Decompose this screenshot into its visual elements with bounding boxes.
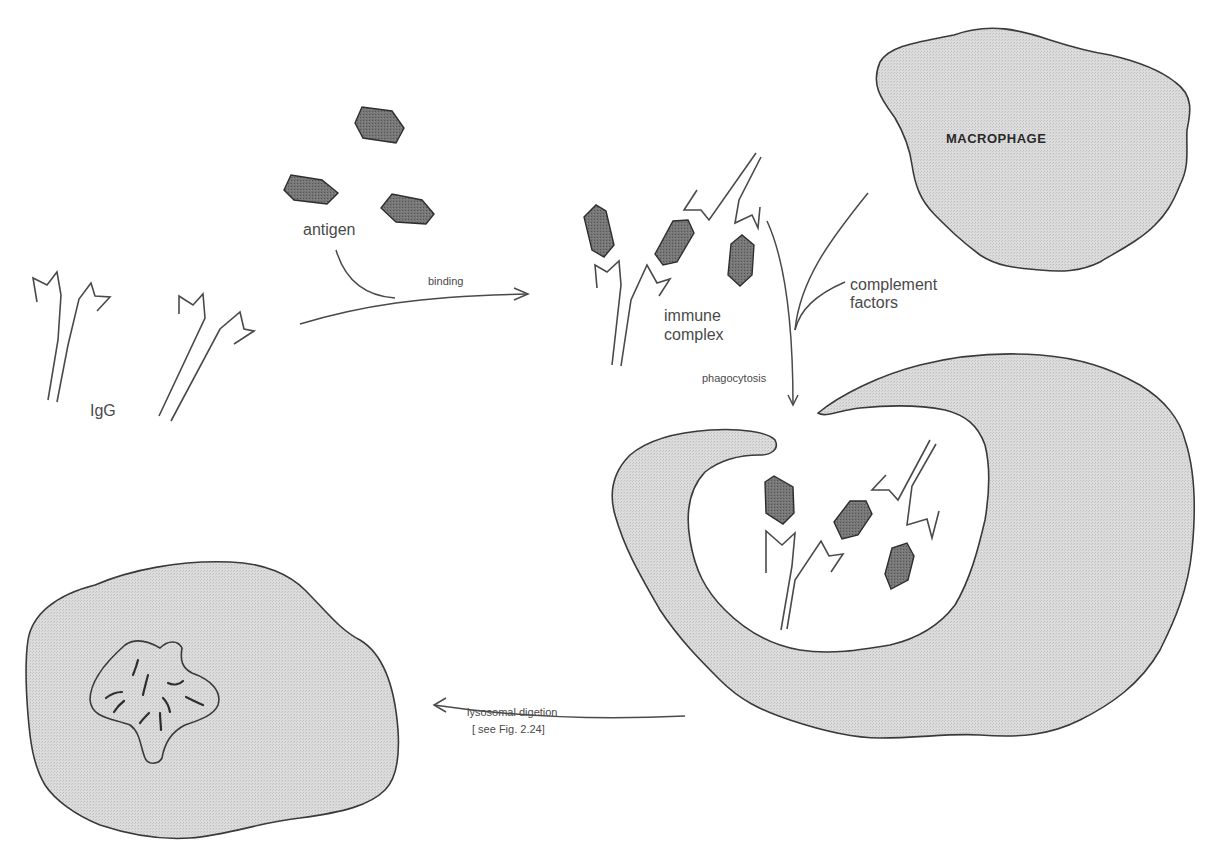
phagocytosis-label: phagocytosis — [702, 372, 767, 384]
macrophage-cell — [876, 28, 1190, 271]
antigen-3 — [381, 194, 434, 224]
antigen-1 — [355, 107, 404, 143]
igg-label: IgG — [90, 402, 116, 419]
lysosomal-digestion-label: lysosomal digetion — [467, 706, 558, 718]
complex-antigen-2 — [655, 220, 694, 265]
binding-label: binding — [428, 275, 463, 287]
complex-antigen-1 — [584, 205, 614, 257]
macrophage-label: MACROPHAGE — [946, 131, 1046, 146]
antigen-label: antigen — [303, 221, 356, 238]
immune-complex-label: immune complex — [664, 307, 725, 343]
engulfed-antigen-3 — [885, 543, 914, 589]
igg-antibody-1 — [33, 272, 110, 402]
diagram-svg: IgG antigen binding immune complex MACRO… — [0, 0, 1221, 860]
engulfed-immune-complex — [765, 440, 939, 630]
binding-arrow — [300, 250, 528, 324]
igg-antibody-2 — [159, 294, 254, 421]
antigen-2 — [284, 175, 338, 204]
engulfed-antigen-2 — [834, 501, 872, 539]
see-figure-reference: [ see Fig. 2.24] — [472, 723, 545, 735]
engulfed-antigen-1 — [765, 476, 794, 524]
immune-complex-phagocytosis-diagram: IgG antigen binding immune complex MACRO… — [0, 0, 1221, 860]
complement-factors-label: complement factors — [850, 276, 942, 311]
complex-antigen-3 — [728, 235, 754, 286]
